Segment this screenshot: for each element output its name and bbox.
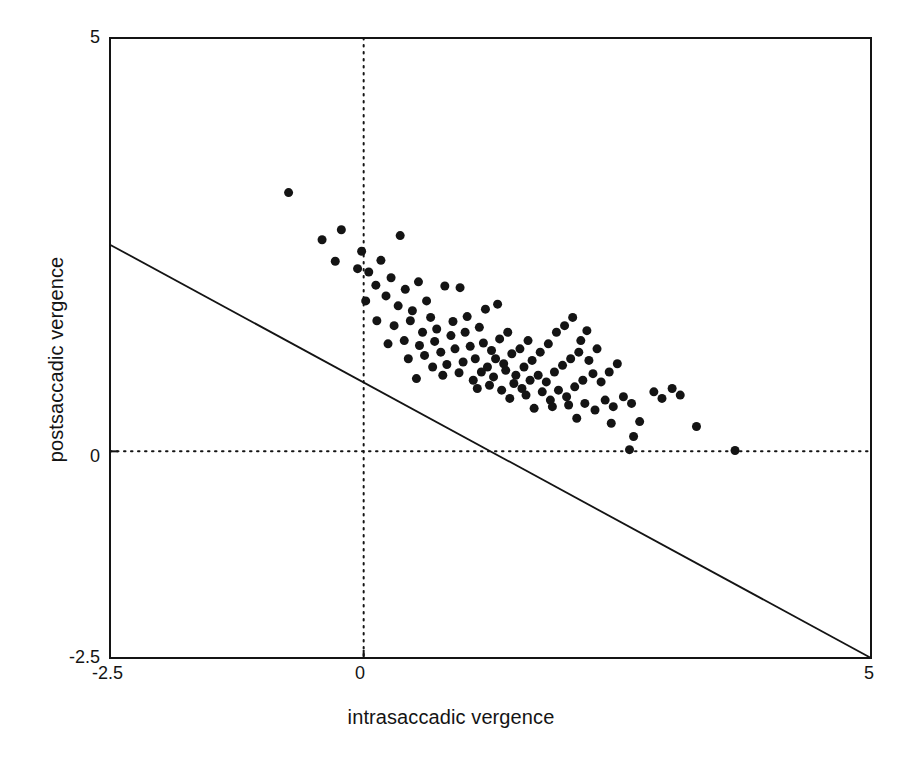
data-point (428, 363, 437, 372)
data-point (446, 331, 455, 340)
data-point (629, 432, 638, 441)
data-point (473, 384, 482, 393)
data-point (418, 328, 427, 337)
data-point (564, 401, 573, 410)
data-point (576, 336, 585, 345)
data-point (456, 283, 465, 292)
data-point (438, 371, 447, 380)
data-point (353, 264, 362, 273)
data-point (337, 225, 346, 234)
data-point (497, 386, 506, 395)
data-point (357, 247, 366, 256)
data-point (536, 348, 545, 357)
data-point (489, 372, 498, 381)
data-point (613, 359, 622, 368)
data-point (605, 367, 614, 376)
data-point (568, 313, 577, 322)
data-point (390, 321, 399, 330)
data-point (485, 381, 494, 390)
data-point (415, 341, 424, 350)
data-point (607, 419, 616, 428)
y-tick-label-zero: 0 (90, 446, 100, 467)
x-tick-label-right: 5 (864, 663, 874, 684)
data-point (554, 386, 563, 395)
data-point (284, 188, 293, 197)
data-point (588, 369, 597, 378)
data-point (731, 446, 740, 455)
data-point (580, 399, 589, 408)
data-point (538, 387, 547, 396)
data-point (548, 402, 557, 411)
data-point (566, 354, 575, 363)
data-point (601, 396, 610, 405)
data-point (442, 360, 451, 369)
data-point (627, 399, 636, 408)
data-point (487, 346, 496, 355)
data-point (491, 354, 500, 363)
data-point (331, 257, 340, 266)
data-point (481, 305, 490, 314)
data-point (450, 344, 459, 353)
data-point (501, 366, 510, 375)
y-axis-title-wrapper: postsaccadic vergence (45, 210, 68, 510)
x-tick-label-zero: 0 (355, 663, 365, 684)
data-point (436, 348, 445, 357)
data-point (505, 394, 514, 403)
data-point (376, 256, 385, 265)
data-point (692, 422, 701, 431)
data-point (381, 291, 390, 300)
data-point (542, 377, 551, 386)
plot-canvas (0, 0, 902, 763)
data-point (455, 368, 464, 377)
data-point (572, 414, 581, 423)
data-point (371, 281, 380, 290)
data-point (400, 336, 409, 345)
data-point (522, 391, 531, 400)
data-point (479, 339, 488, 348)
data-point (408, 306, 417, 315)
data-point (609, 402, 618, 411)
data-point (558, 361, 567, 370)
y-tick-label-top: 5 (90, 27, 100, 48)
data-point (430, 337, 439, 346)
data-point (649, 387, 658, 396)
data-point (635, 417, 644, 426)
data-point (401, 285, 410, 294)
data-point (657, 394, 666, 403)
data-point (463, 312, 472, 321)
data-point (582, 326, 591, 335)
data-point (507, 349, 516, 358)
scatter-plot-figure: intrasaccadic vergence postsaccadic verg… (0, 0, 902, 763)
data-point (578, 376, 587, 385)
data-point (412, 374, 421, 383)
data-point (511, 371, 520, 380)
data-point (534, 371, 543, 380)
data-point (668, 384, 677, 393)
data-point (552, 328, 561, 337)
data-point (560, 321, 569, 330)
data-point (477, 367, 486, 376)
data-point (387, 273, 396, 282)
data-point (495, 334, 504, 343)
data-point (584, 356, 593, 365)
data-point (361, 296, 370, 305)
data-point (550, 367, 559, 376)
data-point (509, 379, 518, 388)
y-axis-title: postsaccadic vergence (45, 257, 67, 463)
data-point (461, 328, 470, 337)
data-point (459, 358, 468, 367)
data-point (471, 354, 480, 363)
data-point (528, 356, 537, 365)
data-point (591, 406, 600, 415)
data-point (426, 313, 435, 322)
data-point (396, 231, 405, 240)
data-point (562, 392, 571, 401)
data-point (515, 344, 524, 353)
data-point (625, 445, 634, 454)
x-tick-label-left: -2.5 (92, 663, 123, 684)
data-point (440, 282, 449, 291)
data-point (574, 348, 583, 357)
data-point (432, 324, 441, 333)
data-point (597, 377, 606, 386)
data-point (394, 301, 403, 310)
